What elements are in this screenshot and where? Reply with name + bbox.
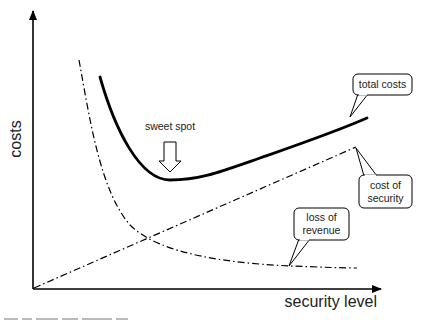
sweet-spot-label: sweet spot [145,120,195,132]
callout-pointer [289,239,310,266]
callout-cost-of-security: cost of security [356,148,412,208]
callout-cost-of-security-line1: cost of [370,179,401,191]
y-axis-label: costs [7,120,24,157]
total-costs-curve [100,77,367,180]
callout-total-costs: total costs [350,74,412,117]
callout-loss-of-revenue-line1: loss of [306,211,336,223]
callout-loss-of-revenue: loss of revenue [289,208,349,266]
callout-cost-of-security-line2: security [367,192,404,204]
callout-total-costs-text: total costs [359,78,406,90]
figure-caption-clipped [4,318,134,323]
sweet-spot-arrow-icon [159,142,181,172]
callout-pointer [356,148,377,176]
diagram-canvas: costs security level sweet spot total co… [0,0,424,323]
x-axis-label: security level [285,293,377,310]
callout-pointer [350,94,368,117]
callout-loss-of-revenue-line2: revenue [303,224,341,236]
